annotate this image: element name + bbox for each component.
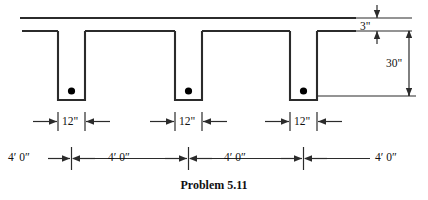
stem-width-label-2: 12" bbox=[179, 116, 195, 128]
span-label-2: 4′ 0″ bbox=[108, 152, 130, 164]
figure-caption: Problem 5.11 bbox=[0, 178, 428, 193]
rebar-dot bbox=[300, 87, 307, 94]
rebar-dot bbox=[68, 87, 75, 94]
figure-container: 3" 30" 12" 12" 12" 4′ 0″ 4′ 0″ 4′ 0″ 4′ … bbox=[0, 0, 428, 200]
total-depth-label: 30" bbox=[386, 58, 402, 70]
stem-width-label-1: 12" bbox=[62, 116, 78, 128]
span-label-4: 4′ 0″ bbox=[375, 152, 397, 164]
dimension-spans bbox=[48, 147, 370, 170]
slab-thickness-label: 3" bbox=[360, 21, 370, 33]
rebar-group bbox=[68, 87, 307, 94]
rebar-dot bbox=[185, 87, 192, 94]
stem-width-label-3: 12" bbox=[294, 116, 310, 128]
span-label-1: 4′ 0″ bbox=[8, 152, 30, 164]
span-label-3: 4′ 0″ bbox=[224, 152, 246, 164]
